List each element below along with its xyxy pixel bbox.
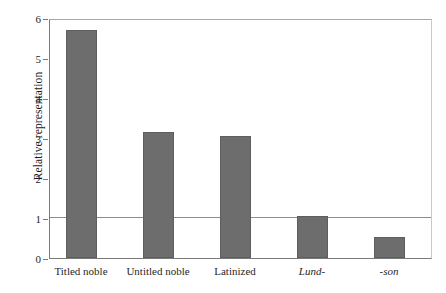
y-tick-label-6: 6 [0,13,41,25]
y-tick-label-1: 1 [0,213,41,225]
bar-son[interactable] [374,237,405,258]
x-tick-label-lund: Lund- [299,265,325,277]
x-tick-label-titled-noble: Titled noble [54,265,107,277]
y-tick-mark-0 [43,259,48,260]
y-tick-label-4: 4 [0,93,41,105]
y-tick-label-5: 5 [0,53,41,65]
y-tick-label-2: 2 [0,173,41,185]
bar-latinized[interactable] [220,136,251,258]
y-tick-mark-6 [43,19,48,20]
x-tick-label-latinized: Latinized [214,265,256,277]
bar-titled-noble[interactable] [66,30,97,258]
plot-area [49,19,432,259]
y-tick-label-3: 3 [0,133,41,145]
y-tick-mark-4 [43,99,48,100]
bar-lund[interactable] [297,216,328,258]
y-tick-mark-1 [43,219,48,220]
y-tick-mark-3 [43,139,48,140]
bar-chart-figure: Relative representation 0 1 2 3 4 5 6 Ti… [0,0,446,293]
x-tick-label-untitled-noble: Untitled noble [126,265,189,277]
x-tick-label-son: -son [380,265,399,277]
bar-untitled-noble[interactable] [143,132,174,258]
y-tick-mark-5 [43,59,48,60]
y-tick-mark-2 [43,179,48,180]
y-tick-label-0: 0 [0,253,41,265]
